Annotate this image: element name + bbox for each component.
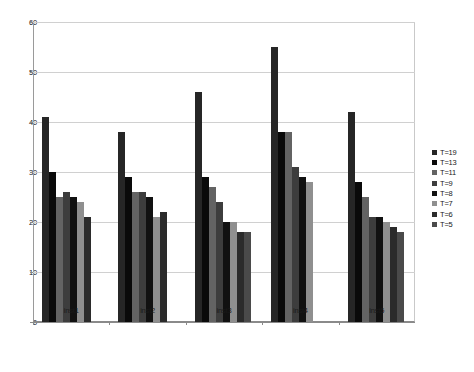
- gridline: [33, 322, 415, 323]
- legend-item[interactable]: T=5: [432, 221, 457, 229]
- legend-label: T=7: [440, 199, 453, 208]
- bar-group: [33, 22, 109, 322]
- bar[interactable]: [195, 92, 202, 322]
- bar[interactable]: [285, 132, 292, 322]
- bar[interactable]: [56, 197, 63, 322]
- legend-label: T=11: [440, 168, 456, 177]
- bar-group: [339, 22, 415, 322]
- legend-swatch-icon: [432, 222, 437, 227]
- x-tick-mark: [186, 322, 187, 325]
- legend-item[interactable]: T=11: [432, 169, 457, 177]
- legend-item[interactable]: T=13: [432, 158, 457, 166]
- x-tick-mark: [262, 322, 263, 325]
- legend-item[interactable]: T=9: [432, 179, 457, 187]
- x-tick-mark: [33, 322, 34, 325]
- bar[interactable]: [278, 132, 285, 322]
- bar[interactable]: [216, 202, 223, 322]
- x-tick-label: inst3: [186, 306, 262, 315]
- x-tick-label: inst2: [109, 306, 185, 315]
- x-tick-label: inst1: [33, 306, 109, 315]
- bar[interactable]: [63, 192, 70, 322]
- plot-area: [33, 22, 415, 322]
- bar[interactable]: [355, 182, 362, 322]
- legend-swatch-icon: [432, 181, 437, 186]
- bar[interactable]: [299, 177, 306, 322]
- legend-label: T=13: [440, 158, 457, 167]
- legend-label: T=5: [440, 220, 453, 229]
- legend: T=19T=13T=11T=9T=8T=7T=6T=5: [432, 148, 457, 229]
- x-tick-mark: [109, 322, 110, 325]
- legend-label: T=9: [440, 179, 453, 188]
- legend-swatch-icon: [432, 191, 437, 196]
- bar[interactable]: [132, 192, 139, 322]
- bar-groups: [33, 22, 415, 322]
- legend-label: T=8: [440, 189, 453, 198]
- bar[interactable]: [139, 192, 146, 322]
- legend-swatch-icon: [432, 160, 437, 165]
- legend-item[interactable]: T=6: [432, 210, 457, 218]
- bar[interactable]: [118, 132, 125, 322]
- legend-item[interactable]: T=8: [432, 190, 457, 198]
- bar[interactable]: [292, 167, 299, 322]
- bar[interactable]: [70, 197, 77, 322]
- legend-swatch-icon: [432, 212, 437, 217]
- bar[interactable]: [146, 197, 153, 322]
- bar[interactable]: [49, 172, 56, 322]
- bar[interactable]: [362, 197, 369, 322]
- bar[interactable]: [42, 117, 49, 322]
- bar[interactable]: [202, 177, 209, 322]
- bar-group: [109, 22, 185, 322]
- legend-item[interactable]: T=19: [432, 148, 457, 156]
- legend-swatch-icon: [432, 150, 437, 155]
- bar[interactable]: [77, 202, 84, 322]
- bar[interactable]: [348, 112, 355, 322]
- x-tick-mark: [339, 322, 340, 325]
- bar-group: [262, 22, 338, 322]
- bar[interactable]: [306, 182, 313, 322]
- legend-label: T=6: [440, 210, 453, 219]
- x-tick-label: inst5: [339, 306, 415, 315]
- legend-swatch-icon: [432, 170, 437, 175]
- legend-item[interactable]: T=7: [432, 200, 457, 208]
- bar[interactable]: [209, 187, 216, 322]
- legend-swatch-icon: [432, 201, 437, 206]
- legend-label: T=19: [440, 148, 457, 157]
- x-tick-label: inst4: [262, 306, 338, 315]
- bar-group: [186, 22, 262, 322]
- bar[interactable]: [271, 47, 278, 322]
- bar-chart: 0102030405060 inst1inst2inst3inst4inst5 …: [0, 0, 474, 372]
- bar[interactable]: [125, 177, 132, 322]
